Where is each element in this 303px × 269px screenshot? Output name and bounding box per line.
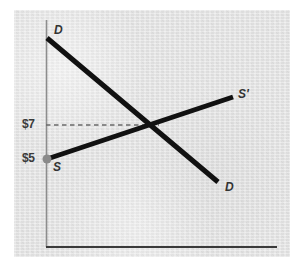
price-tick-label-high: $7	[22, 118, 35, 130]
demand-curve-bottom-label: D	[225, 181, 234, 193]
chart-plot-area	[0, 0, 303, 269]
supply-curve-end-label: S'	[238, 88, 249, 100]
price-tick-label-low: $5	[22, 152, 35, 164]
supply-demand-figure: D D S' S $7 $5	[0, 0, 303, 269]
supply-curve-start-label: S	[53, 161, 61, 173]
demand-curve-top-label: D	[54, 24, 63, 36]
supply-origin-dot	[43, 155, 52, 164]
supply-curve	[47, 97, 233, 159]
